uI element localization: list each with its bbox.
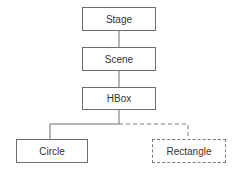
node-scene: Scene — [82, 47, 156, 71]
edge-hbox-circle — [50, 110, 119, 139]
node-label: Rectangle — [166, 146, 211, 157]
node-label: Stage — [106, 14, 132, 25]
node-stage: Stage — [82, 7, 156, 31]
edge-hbox-rectangle — [119, 124, 188, 139]
node-label: Scene — [105, 54, 133, 65]
node-circle: Circle — [16, 139, 88, 163]
node-hbox: HBox — [82, 87, 156, 110]
node-rectangle: Rectangle — [152, 139, 226, 163]
node-label: HBox — [107, 93, 131, 104]
node-label: Circle — [39, 146, 65, 157]
